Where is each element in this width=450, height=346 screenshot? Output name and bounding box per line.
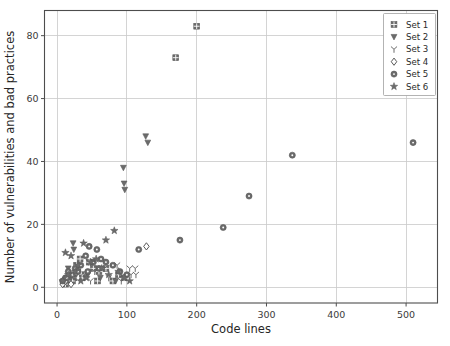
legend-label-set-2: Set 2	[406, 32, 428, 42]
y-tick-label: 60	[26, 93, 38, 104]
data-point	[102, 236, 109, 243]
data-point	[173, 55, 179, 61]
data-point	[127, 266, 133, 272]
data-point	[194, 23, 200, 29]
legend[interactable]: Set 1Set 2Set 3Set 4Set 5Set 6	[384, 14, 436, 96]
data-point	[67, 252, 74, 259]
x-axis-ticks: 0100200300400500	[54, 303, 415, 320]
x-tick-label: 100	[118, 309, 136, 320]
data-point	[85, 269, 91, 275]
legend-label-set-5: Set 5	[406, 69, 428, 79]
data-point	[71, 247, 77, 253]
data-point	[86, 243, 92, 249]
data-point	[289, 152, 295, 158]
y-axis-ticks: 020406080	[26, 30, 44, 293]
data-points-group	[59, 23, 416, 287]
legend-label-set-4: Set 4	[406, 57, 428, 67]
scatter-chart-figure: 0100200300400500 020406080 Code lines Nu…	[0, 0, 450, 346]
data-point	[132, 266, 138, 272]
data-point	[70, 241, 76, 247]
legend-label-set-1: Set 1	[406, 20, 428, 30]
x-tick-label: 500	[397, 309, 415, 320]
y-tick-label: 40	[26, 156, 38, 167]
x-tick-label: 0	[54, 309, 60, 320]
data-point	[177, 237, 183, 243]
y-tick-label: 80	[26, 30, 38, 41]
data-point	[136, 246, 142, 252]
data-point	[88, 278, 94, 284]
data-point	[94, 246, 100, 252]
data-point	[410, 140, 416, 146]
data-point	[246, 193, 252, 199]
data-point	[111, 227, 118, 234]
data-point	[220, 224, 226, 230]
legend-marker-set-5	[391, 71, 397, 77]
data-point	[120, 165, 126, 171]
x-tick-label: 200	[188, 309, 206, 320]
plot-canvas: 0100200300400500 020406080 Code lines Nu…	[0, 0, 450, 346]
series-set-1	[63, 23, 200, 287]
data-point	[121, 181, 127, 187]
data-point	[133, 272, 139, 278]
data-point	[143, 134, 149, 140]
data-point	[83, 253, 89, 259]
legend-marker-set-1	[391, 22, 397, 28]
x-tick-label: 300	[257, 309, 275, 320]
legend-label-set-6: Set 6	[406, 82, 428, 92]
y-tick-label: 0	[32, 282, 38, 293]
data-point	[110, 262, 116, 268]
x-tick-label: 400	[327, 309, 345, 320]
y-tick-label: 20	[26, 219, 38, 230]
data-point	[103, 259, 109, 265]
data-point	[105, 271, 112, 278]
x-axis-label: Code lines	[211, 322, 271, 336]
y-axis-label: Number of vulnerabilities and bad practi…	[3, 31, 17, 283]
data-point	[144, 243, 150, 250]
legend-label-set-3: Set 3	[406, 44, 428, 54]
data-point	[145, 140, 151, 146]
